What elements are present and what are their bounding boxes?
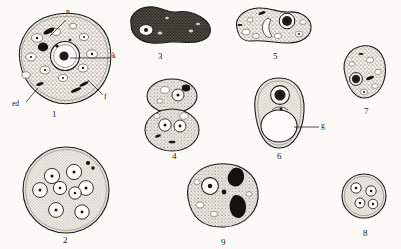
nucleus-label: n — [66, 8, 70, 16]
figure-number-2: 2 — [63, 236, 68, 245]
leader-ed — [26, 88, 38, 102]
karyosome-label: k — [112, 52, 116, 60]
plate-drawing — [0, 0, 401, 249]
figure-number-7: 7 — [364, 107, 369, 116]
figure-number-9: 9 — [221, 238, 226, 247]
figure-4-drawing — [145, 79, 199, 151]
figure-number-4: 4 — [172, 152, 177, 161]
food-vacuole-label: f — [104, 93, 107, 101]
figure-5-drawing — [236, 8, 311, 43]
figure-number-1: 1 — [52, 110, 57, 119]
figure-3-drawing — [131, 7, 211, 43]
figure-7-drawing — [344, 46, 385, 98]
figure-number-6: 6 — [277, 152, 282, 161]
figure-number-3: 3 — [158, 52, 163, 61]
figure-2-drawing — [23, 147, 109, 233]
figure-6-drawing — [255, 78, 304, 148]
ectoplasm-label: ed — [12, 100, 19, 108]
glycogen-vacuole-label: g — [321, 122, 325, 130]
figure-number-8: 8 — [363, 229, 368, 238]
figure-8-drawing — [342, 174, 386, 218]
figure-number-5: 5 — [273, 52, 278, 61]
figure-9-drawing — [188, 164, 259, 227]
illustration-plate: 1 2 3 4 5 6 7 8 9 n k f ed g — [0, 0, 401, 249]
figure-1-drawing — [19, 13, 111, 103]
